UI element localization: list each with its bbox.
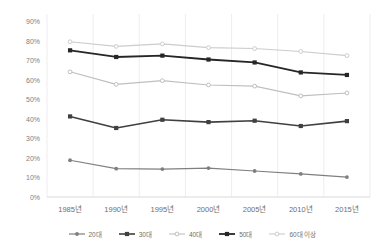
legend-item[interactable]: 30대 [118, 229, 152, 239]
legend-item[interactable]: 60대 이상 [268, 229, 316, 239]
legend-item[interactable]: 50대 [218, 229, 252, 239]
legend-swatch-icon [118, 230, 136, 238]
legend-item[interactable]: 20대 [68, 229, 102, 239]
legend-label: 50대 [239, 229, 252, 239]
legend-label: 30대 [139, 229, 152, 239]
x-axis: 1985년1990년1995년2000년2005년2010년2015년 [0, 0, 384, 245]
legend-label: 40대 [189, 229, 202, 239]
x-axis-tick-label: 1985년 [58, 203, 82, 214]
legend-swatch-icon [68, 230, 86, 238]
legend-swatch-icon [268, 230, 286, 238]
legend-swatch-icon [218, 230, 236, 238]
chart-legend: 20대30대40대50대60대 이상 [0, 229, 384, 239]
legend-item[interactable]: 40대 [168, 229, 202, 239]
legend-label: 60대 이상 [289, 229, 316, 239]
x-axis-tick-label: 1990년 [104, 203, 128, 214]
x-axis-tick-label: 2015년 [335, 203, 359, 214]
legend-label: 20대 [89, 229, 102, 239]
x-axis-tick-label: 2000년 [197, 203, 221, 214]
line-chart: 0%10%20%30%40%50%60%70%80%90% 1985년1990년… [0, 0, 384, 245]
x-axis-tick-label: 2010년 [289, 203, 313, 214]
x-axis-tick-label: 1995년 [151, 203, 175, 214]
legend-swatch-icon [168, 230, 186, 238]
x-axis-tick-label: 2005년 [243, 203, 267, 214]
